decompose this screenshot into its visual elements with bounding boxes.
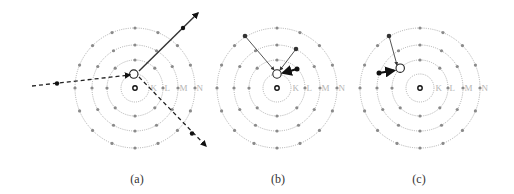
shell-label-l: L bbox=[307, 83, 313, 93]
m-shell-electron bbox=[377, 71, 382, 76]
nucleus bbox=[418, 86, 422, 90]
electron bbox=[153, 106, 156, 109]
electron bbox=[381, 108, 384, 111]
electron bbox=[256, 106, 259, 109]
electron bbox=[133, 26, 136, 29]
electron bbox=[176, 44, 179, 47]
electron bbox=[176, 129, 179, 132]
electron bbox=[247, 86, 250, 89]
electron bbox=[418, 26, 421, 29]
electron bbox=[318, 129, 321, 132]
l-shell-electron bbox=[295, 67, 300, 72]
electron bbox=[275, 58, 278, 61]
nucleus bbox=[133, 86, 137, 90]
electron bbox=[233, 44, 236, 47]
electron bbox=[133, 114, 136, 117]
electron bbox=[215, 86, 218, 89]
electron bbox=[375, 86, 378, 89]
electron bbox=[418, 129, 421, 132]
electron bbox=[96, 65, 99, 68]
electron bbox=[171, 65, 174, 68]
electron bbox=[397, 124, 400, 127]
electron bbox=[133, 146, 136, 149]
shell-label-m: M bbox=[322, 83, 330, 93]
caption-c: (c) bbox=[412, 172, 425, 186]
electron bbox=[233, 129, 236, 132]
electron bbox=[114, 67, 117, 70]
electron bbox=[399, 106, 402, 109]
electron bbox=[112, 124, 115, 127]
electron bbox=[90, 86, 93, 89]
electron bbox=[189, 63, 192, 66]
electron bbox=[110, 31, 113, 34]
panel-c-arrows bbox=[377, 34, 398, 76]
electron bbox=[105, 86, 108, 89]
electron bbox=[418, 146, 421, 149]
electron bbox=[91, 44, 94, 47]
electron bbox=[456, 65, 459, 68]
electron bbox=[318, 44, 321, 47]
scattered-particle bbox=[190, 131, 194, 135]
electron bbox=[220, 109, 223, 112]
electron-vacancy bbox=[130, 70, 138, 78]
electron-vacancy bbox=[273, 70, 281, 78]
incident-particle-path bbox=[32, 75, 130, 86]
electron bbox=[133, 58, 136, 61]
caption-a: (a) bbox=[130, 172, 143, 186]
shell-label-k: K bbox=[436, 83, 443, 93]
electron bbox=[275, 129, 278, 132]
caption-b: (b) bbox=[271, 172, 285, 186]
electron bbox=[110, 142, 113, 145]
m-to-k-transition bbox=[280, 49, 296, 70]
electron bbox=[397, 49, 400, 52]
electron bbox=[474, 109, 477, 112]
electron bbox=[78, 63, 81, 66]
electron bbox=[461, 44, 464, 47]
n-shell-electron bbox=[243, 34, 248, 39]
electron bbox=[331, 63, 334, 66]
electron bbox=[313, 65, 316, 68]
electron bbox=[189, 109, 192, 112]
electron bbox=[156, 142, 159, 145]
electron-vacancy bbox=[396, 64, 404, 72]
shell-label-n: N bbox=[197, 83, 204, 93]
electron bbox=[112, 49, 115, 52]
electron bbox=[440, 124, 443, 127]
electron bbox=[363, 63, 366, 66]
ejected-electron-path bbox=[139, 13, 198, 71]
electron bbox=[238, 65, 241, 68]
electron bbox=[313, 108, 316, 111]
electron bbox=[441, 142, 444, 145]
electron bbox=[220, 63, 223, 66]
electron bbox=[96, 108, 99, 111]
shell-label-m: M bbox=[180, 83, 188, 93]
electron bbox=[78, 109, 81, 112]
electron bbox=[254, 124, 257, 127]
electron bbox=[275, 26, 278, 29]
electron bbox=[91, 129, 94, 132]
n-to-k-transition bbox=[245, 36, 274, 70]
shell-label-n: N bbox=[339, 83, 346, 93]
electron bbox=[155, 124, 158, 127]
m-shell-electron bbox=[294, 47, 299, 52]
electron bbox=[295, 106, 298, 109]
electron bbox=[438, 106, 441, 109]
electron bbox=[395, 142, 398, 145]
electron bbox=[376, 44, 379, 47]
shell-label-m: M bbox=[465, 83, 473, 93]
electron bbox=[390, 86, 393, 89]
nucleus bbox=[275, 86, 279, 90]
electron bbox=[298, 142, 301, 145]
electron bbox=[238, 108, 241, 111]
panel-a: KLMN bbox=[73, 26, 203, 149]
electron bbox=[232, 86, 235, 89]
electron bbox=[275, 114, 278, 117]
electron bbox=[133, 43, 136, 46]
electron bbox=[153, 67, 156, 70]
panel-b-arrows bbox=[243, 34, 300, 73]
incident-particle bbox=[55, 81, 59, 85]
electron bbox=[440, 49, 443, 52]
electron bbox=[418, 114, 421, 117]
electron bbox=[441, 31, 444, 34]
electron bbox=[376, 129, 379, 132]
